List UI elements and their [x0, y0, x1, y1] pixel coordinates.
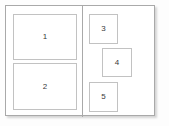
content-box-5-label: 5: [101, 93, 105, 101]
column-divider: [82, 6, 83, 117]
content-box-4[interactable]: 4: [102, 48, 132, 77]
page-frame: 1 2 3 4 5: [5, 5, 155, 116]
content-box-5[interactable]: 5: [89, 82, 118, 112]
content-box-1-label: 1: [43, 33, 47, 41]
content-box-3-label: 3: [101, 25, 105, 33]
content-box-2-label: 2: [43, 83, 47, 91]
content-box-4-label: 4: [115, 59, 119, 67]
diagram-canvas: 1 2 3 4 5: [0, 0, 169, 126]
content-box-1[interactable]: 1: [13, 14, 77, 60]
content-box-3[interactable]: 3: [89, 14, 118, 44]
content-box-2[interactable]: 2: [13, 63, 77, 110]
